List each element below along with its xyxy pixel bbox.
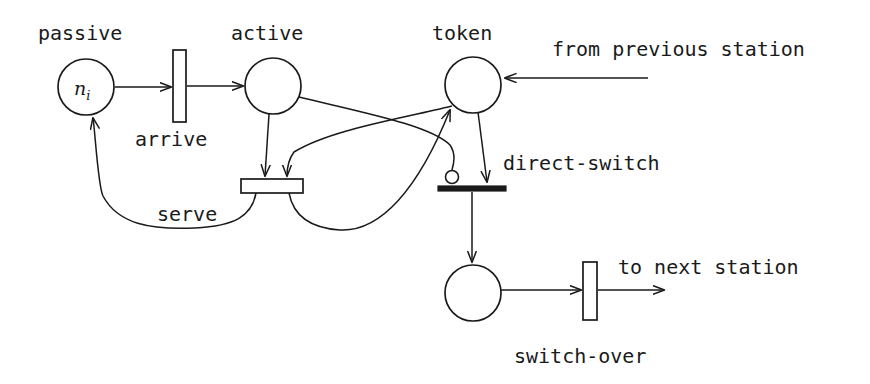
petri-net-diagram: ni passive active token arrive serve dir… bbox=[0, 0, 870, 384]
arc-active-to-direct-switch-inhibitor bbox=[299, 97, 454, 170]
place-token[interactable] bbox=[445, 57, 501, 113]
transition-label-direct-switch: direct-switch bbox=[503, 151, 660, 175]
place-label-passive: passive bbox=[38, 21, 122, 45]
place-label-token: token bbox=[432, 21, 492, 45]
transition-label-serve: serve bbox=[157, 202, 217, 226]
place-label-active: active bbox=[231, 21, 303, 45]
transition-switch-over[interactable] bbox=[583, 262, 597, 320]
inhibitor-dot-icon bbox=[446, 171, 459, 184]
petri-net-canvas: ni passive active token arrive serve dir… bbox=[0, 0, 870, 384]
arc-token-to-direct-switch bbox=[478, 112, 487, 182]
transition-label-arrive: arrive bbox=[135, 127, 207, 151]
arc-serve-to-token bbox=[289, 110, 450, 230]
arc-active-to-serve bbox=[265, 114, 269, 176]
transition-serve[interactable] bbox=[241, 179, 303, 193]
transition-arrive[interactable] bbox=[173, 50, 186, 122]
arc-token-to-serve bbox=[287, 106, 452, 176]
transition-label-switch-over: switch-over bbox=[514, 344, 646, 368]
annotation-to-next-station: to next station bbox=[618, 255, 799, 279]
place-switching[interactable] bbox=[445, 265, 501, 321]
transition-direct-switch[interactable] bbox=[438, 186, 506, 191]
place-active[interactable] bbox=[245, 58, 301, 114]
annotation-from-previous-station: from previous station bbox=[552, 37, 805, 61]
